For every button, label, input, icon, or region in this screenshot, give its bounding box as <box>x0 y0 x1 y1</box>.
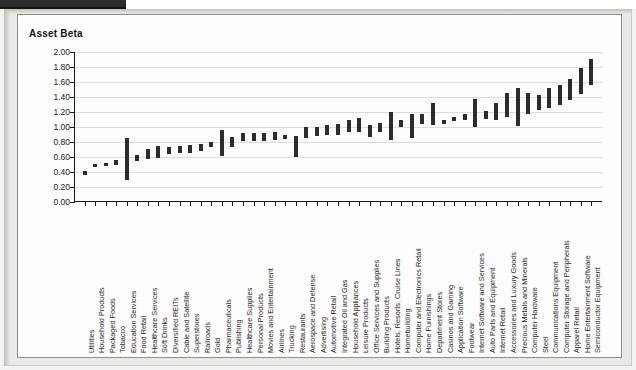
range-bar <box>547 88 551 108</box>
x-axis-tick-label: Auto Parts and Equipment <box>489 268 497 353</box>
y-tick-mark <box>70 172 74 173</box>
x-axis-tick-label: Household Appliances <box>352 281 360 353</box>
range-bar <box>146 149 150 160</box>
x-tick-mark <box>148 202 149 206</box>
x-axis-tick-label: Publishing <box>235 319 243 353</box>
range-bar <box>410 114 414 138</box>
x-axis-tick-label: Office Services and Supplies <box>373 260 381 353</box>
x-axis-tick-label: Railroads <box>204 322 212 353</box>
range-bar <box>516 88 520 126</box>
x-axis-tick-label: Department Stores <box>436 292 444 353</box>
gridline <box>75 52 602 53</box>
x-tick-mark <box>127 202 128 206</box>
x-axis-tick-label: Personal Products <box>257 293 265 353</box>
x-tick-mark <box>285 202 286 206</box>
x-axis-tick-label: Superstores <box>193 314 201 353</box>
x-tick-mark <box>85 202 86 206</box>
x-axis-tick-label: Communications Equipment <box>552 262 560 353</box>
x-tick-mark <box>137 202 138 206</box>
x-axis-tick-label: Building Products <box>383 296 391 353</box>
figure-mount: Asset Beta 2.001.801.601.401.201.000.800… <box>4 9 632 366</box>
y-tick-mark <box>70 97 74 98</box>
page-header-band <box>0 0 126 9</box>
range-bar <box>83 171 87 175</box>
x-tick-mark <box>158 202 159 206</box>
x-tick-mark <box>518 202 519 206</box>
range-bar <box>399 120 403 127</box>
x-axis-tick-label: Healthcare Services <box>151 288 159 353</box>
x-axis-tick-label: Pharmaceuticals <box>225 299 233 353</box>
range-bar <box>420 114 424 125</box>
range-bar <box>463 114 467 121</box>
x-tick-mark <box>391 202 392 206</box>
plot-wrapper: 2.001.801.601.401.201.000.800.600.400.20… <box>18 15 621 357</box>
range-bar <box>357 118 361 132</box>
x-tick-mark <box>327 202 328 206</box>
range-bar <box>431 103 435 125</box>
x-axis-tick-label: Packaged Foods <box>109 298 117 353</box>
x-axis-tick-label: Apparel Retail <box>573 307 581 353</box>
y-axis-tick-label: 0.20 <box>53 182 70 192</box>
plot-area <box>74 52 602 202</box>
y-axis-tick-label: 2.00 <box>53 47 70 57</box>
x-axis-tick-label: Computer Hardware <box>531 287 539 353</box>
y-tick-mark <box>70 67 74 68</box>
x-tick-mark <box>560 202 561 206</box>
x-axis-tick-label: Healthcare Supplies <box>246 288 254 353</box>
range-bar <box>315 127 319 136</box>
x-tick-mark <box>465 202 466 206</box>
x-axis-tick-label: Integrated Oil and Gas <box>341 280 349 353</box>
x-axis-tick-label: Utilities <box>88 329 96 353</box>
range-bar <box>347 120 351 132</box>
range-bar <box>252 133 256 141</box>
y-axis-tick-labels: 2.001.801.601.401.201.000.800.600.400.20… <box>36 15 70 357</box>
y-axis-tick-label: 0.60 <box>53 152 70 162</box>
range-bar <box>294 136 298 157</box>
range-bar <box>125 138 129 180</box>
x-tick-mark <box>275 202 276 206</box>
x-tick-mark <box>422 202 423 206</box>
range-bar <box>156 146 160 158</box>
y-tick-mark <box>70 82 74 83</box>
y-axis-tick-label: 0.40 <box>53 167 70 177</box>
x-tick-mark <box>211 202 212 206</box>
x-axis-tick-label: Tobacco <box>119 326 127 353</box>
range-bar <box>230 137 234 147</box>
range-bar <box>167 147 171 155</box>
x-axis-tick-label: Aerospace and Defense <box>309 275 317 353</box>
x-tick-mark <box>169 202 170 206</box>
y-axis-tick-label: 0.00 <box>53 197 70 207</box>
y-axis-tick-label: 1.80 <box>53 62 70 72</box>
x-tick-mark <box>475 202 476 206</box>
x-axis-tick-label: Computer and Electronics Retail <box>415 248 423 353</box>
range-bar <box>199 144 203 151</box>
range-bar <box>537 95 541 110</box>
x-axis-tick-label: Home Furnishings <box>425 294 433 353</box>
x-tick-mark <box>486 202 487 206</box>
scan-shadow-left <box>4 9 10 366</box>
range-bar <box>442 120 446 124</box>
y-axis-tick-label: 1.40 <box>53 92 70 102</box>
x-tick-mark <box>507 202 508 206</box>
x-axis-tick-label: Internet Software and Services <box>478 253 486 353</box>
range-bar <box>526 93 530 114</box>
gridline <box>75 187 602 188</box>
x-axis-tick-label: Gold <box>214 338 222 353</box>
x-tick-mark <box>264 202 265 206</box>
x-axis-tick-label: Education Services <box>130 291 138 353</box>
x-axis-tick-label: Home Entertainment Software <box>584 255 592 353</box>
x-axis-tick-label: Restaurants <box>299 314 307 353</box>
x-axis-tick-label: Soft Drinks <box>161 317 169 353</box>
x-axis-category-labels: UtilitiesHousehold ProductsPackaged Food… <box>74 207 602 355</box>
y-tick-mark <box>70 142 74 143</box>
range-bar <box>241 133 245 141</box>
range-bar <box>336 124 340 135</box>
x-axis-tick-label: Computer Storage and Peripherals <box>563 240 571 353</box>
x-tick-mark <box>581 202 582 206</box>
y-tick-mark <box>70 52 74 53</box>
range-bar <box>589 59 593 85</box>
x-axis-tick-label: Movies and Entertainment <box>267 268 275 353</box>
y-axis-tick-label: 1.20 <box>53 107 70 117</box>
x-axis-tick-label: Airlines <box>278 329 286 353</box>
y-tick-mark <box>70 127 74 128</box>
